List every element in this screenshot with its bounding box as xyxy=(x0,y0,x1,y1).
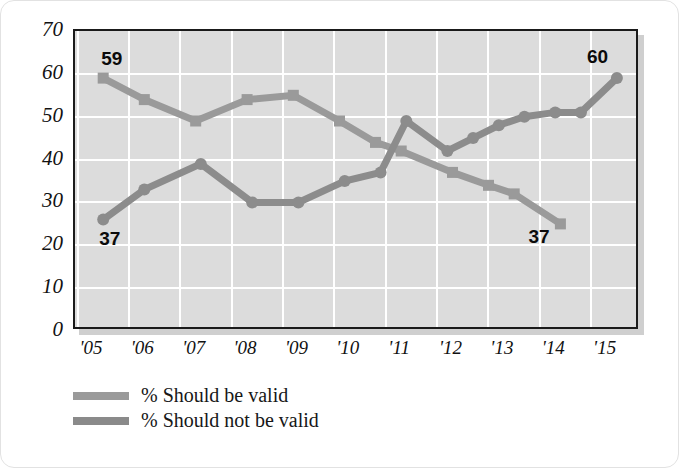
endpoint-label-top-right: 60 xyxy=(587,46,608,68)
x-axis-tick-label: '09 xyxy=(285,337,308,359)
y-axis-tick-label: 50 xyxy=(42,102,63,127)
data-point-should-be-valid xyxy=(190,116,201,127)
y-axis-tick-label: 30 xyxy=(42,188,63,213)
x-axis-tick-label: '15 xyxy=(593,337,616,359)
data-point-should-be-valid xyxy=(242,94,253,105)
x-axis-tick-label: '08 xyxy=(234,337,257,359)
data-point-should-be-valid xyxy=(396,146,407,157)
data-point-should-be-valid xyxy=(483,180,494,191)
data-point-should-be-valid xyxy=(139,94,150,105)
legend-item-should-be-valid: % Should be valid xyxy=(73,383,319,408)
y-axis: 010203040506070 xyxy=(1,1,71,361)
x-axis-tick-label: '12 xyxy=(439,337,462,359)
data-point-should-not-be-valid xyxy=(467,132,479,144)
legend-swatch-should-be-valid xyxy=(73,392,129,400)
endpoint-label-bottom-right: 37 xyxy=(528,226,549,248)
data-point-should-not-be-valid xyxy=(339,175,351,187)
x-axis-tick-label: '06 xyxy=(131,337,154,359)
y-axis-tick-label: 20 xyxy=(42,231,63,256)
x-axis-tick-label: '14 xyxy=(542,337,565,359)
data-point-should-not-be-valid xyxy=(97,214,109,226)
data-point-should-be-valid xyxy=(334,116,345,127)
legend-label-should-be-valid: % Should be valid xyxy=(141,384,288,407)
data-point-should-not-be-valid xyxy=(611,72,623,84)
data-point-should-be-valid xyxy=(509,188,520,199)
data-point-should-not-be-valid xyxy=(400,115,412,127)
legend-swatch-should-not-be-valid xyxy=(73,417,129,425)
plot-area xyxy=(73,29,638,329)
x-axis: '05'06'07'08'09'10'11'12'13'14'15 xyxy=(73,337,638,371)
y-axis-tick-label: 40 xyxy=(42,145,63,170)
endpoint-label-top-left: 59 xyxy=(101,48,122,70)
series-line-should-not-be-valid xyxy=(103,78,617,220)
series-lines xyxy=(75,31,640,331)
x-axis-tick-label: '11 xyxy=(388,337,410,359)
legend-item-should-not-be-valid: % Should not be valid xyxy=(73,408,319,433)
data-point-should-not-be-valid xyxy=(518,111,530,123)
data-point-should-be-valid xyxy=(98,73,109,84)
data-point-should-be-valid xyxy=(288,90,299,101)
data-point-should-not-be-valid xyxy=(441,145,453,157)
data-point-should-be-valid xyxy=(555,218,566,229)
data-point-should-be-valid xyxy=(370,137,381,148)
x-axis-tick-label: '05 xyxy=(79,337,102,359)
data-point-should-not-be-valid xyxy=(246,196,258,208)
data-point-should-not-be-valid xyxy=(375,166,387,178)
data-point-should-not-be-valid xyxy=(138,184,150,196)
data-point-should-not-be-valid xyxy=(493,119,505,131)
data-point-should-not-be-valid xyxy=(575,106,587,118)
endpoint-label-bottom-left: 37 xyxy=(99,228,120,250)
y-axis-tick-label: 0 xyxy=(53,317,64,342)
chart-card: 010203040506070 '05'06'07'08'09'10'11'12… xyxy=(0,0,679,468)
data-point-should-not-be-valid xyxy=(195,158,207,170)
legend-label-should-not-be-valid: % Should not be valid xyxy=(141,409,319,432)
series-line-should-be-valid xyxy=(103,78,560,224)
x-axis-tick-label: '07 xyxy=(182,337,205,359)
x-axis-tick-label: '10 xyxy=(336,337,359,359)
y-axis-tick-label: 10 xyxy=(42,274,63,299)
y-axis-tick-label: 60 xyxy=(42,59,63,84)
data-point-should-not-be-valid xyxy=(549,106,561,118)
x-axis-tick-label: '13 xyxy=(490,337,513,359)
data-point-should-be-valid xyxy=(447,167,458,178)
chart-legend: % Should be valid % Should not be valid xyxy=(73,383,319,433)
data-point-should-not-be-valid xyxy=(292,196,304,208)
y-axis-tick-label: 70 xyxy=(42,17,63,42)
